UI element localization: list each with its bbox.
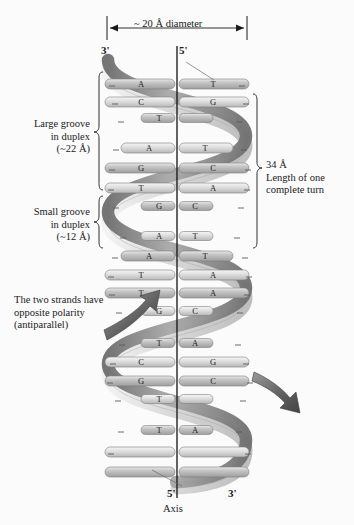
base-letter-left: C <box>138 357 144 367</box>
base-letter-right: T <box>210 79 216 89</box>
base-letter-left: G <box>156 201 162 211</box>
base-letter-right: T <box>202 251 208 261</box>
top-right-prime-label: 5' <box>179 44 188 56</box>
large-groove-bracket <box>94 72 103 190</box>
base-pair-right-bar <box>179 395 213 404</box>
turn-length-line-1: 34 Å <box>266 159 352 172</box>
dna-helix-svg: ATCGTATGCTAGCATATTATAGCTACGGCTTA <box>0 0 354 525</box>
base-letter-right: G <box>210 357 216 367</box>
base-pair-right-bar <box>179 114 213 123</box>
bottom-left-prime-label: 5' <box>167 487 176 499</box>
top-left-prime-label: 3' <box>101 44 110 56</box>
base-letter-left: A <box>146 143 153 153</box>
base-letter-right: A <box>210 288 217 298</box>
base-letter-right: T <box>202 143 208 153</box>
base-letter-left: T <box>156 338 162 348</box>
small-groove-line-3: (~12 Å) <box>6 231 90 244</box>
base-letter-left: A <box>156 231 163 241</box>
small-groove-line-1: Small groove <box>6 206 90 219</box>
base-letter-left: A <box>138 79 145 89</box>
base-letter-left: T <box>138 183 144 193</box>
axis-label: Axis <box>163 503 183 514</box>
diameter-label: ~ 20 Å diameter <box>134 18 202 29</box>
base-pair-right-bar <box>179 467 249 477</box>
antiparallel-line-2: opposite polarity <box>14 307 134 320</box>
large-groove-line-2: in duplex <box>6 131 90 144</box>
small-groove-annotation: Small groove in duplex (~12 Å) <box>6 206 90 244</box>
base-letter-left: A <box>146 251 153 261</box>
base-pair-left-bar <box>105 447 175 457</box>
base-letter-right: A <box>210 183 217 193</box>
small-groove-line-2: in duplex <box>6 219 90 232</box>
antiparallel-annotation: The two strands have opposite polarity (… <box>14 294 134 332</box>
antiparallel-arrow-down-icon <box>252 372 300 413</box>
base-letter-right: C <box>192 306 198 316</box>
large-groove-annotation: Large groove in duplex (~22 Å) <box>6 118 90 156</box>
base-letter-left: T <box>156 425 162 435</box>
base-letter-right: A <box>192 338 199 348</box>
base-letter-left: T <box>156 113 162 123</box>
antiparallel-line-1: The two strands have <box>14 294 134 307</box>
base-letter-left: G <box>138 376 144 386</box>
base-letter-right: C <box>210 163 216 173</box>
left-arrow-icon <box>110 25 118 32</box>
turn-length-bracket <box>253 94 262 248</box>
bottom-right-prime-label: 3' <box>228 487 237 499</box>
base-letter-left: T <box>138 270 144 280</box>
base-letter-left: C <box>138 97 144 107</box>
base-letter-right: A <box>192 425 199 435</box>
base-letter-right: C <box>210 376 216 386</box>
base-pair-right-bar <box>179 447 249 457</box>
antiparallel-line-3: (antiparallel) <box>14 319 134 332</box>
large-groove-line-3: (~22 Å) <box>6 143 90 156</box>
base-letter-left: G <box>138 163 144 173</box>
base-letter-right: G <box>210 97 216 107</box>
base-letter-right: T <box>192 231 198 241</box>
turn-length-annotation: 34 Å Length of one complete turn <box>266 159 352 197</box>
base-pair-left-bar <box>105 467 175 477</box>
large-groove-line-1: Large groove <box>6 118 90 131</box>
turn-length-line-3: complete turn <box>266 184 352 197</box>
base-letter-right: A <box>210 270 217 280</box>
base-letter-right: C <box>192 201 198 211</box>
right-arrow-icon <box>236 25 244 32</box>
dna-diagram-figure: ATCGTATGCTAGCATATTATAGCTACGGCTTA <box>0 0 354 525</box>
turn-length-line-2: Length of one <box>266 172 352 185</box>
base-letter-left: T <box>156 394 162 404</box>
